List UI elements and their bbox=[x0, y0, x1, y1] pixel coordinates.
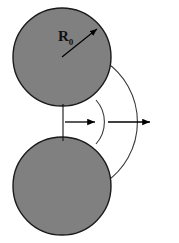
inner-range-arc bbox=[96, 100, 104, 144]
radius-symbol: R bbox=[58, 28, 69, 44]
diagram-canvas: R0 bbox=[0, 0, 179, 243]
sphere-interaction-diagram: R0 bbox=[0, 0, 179, 243]
radius-subscript: 0 bbox=[69, 37, 74, 47]
lower-sphere bbox=[13, 137, 111, 235]
